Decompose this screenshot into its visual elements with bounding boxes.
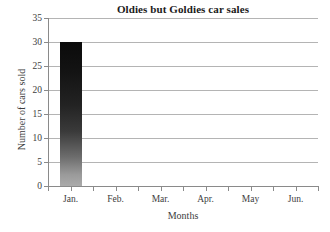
y-axis-tick-label: 30 xyxy=(33,37,43,47)
x-axis-ticks xyxy=(48,186,318,192)
y-axis-tick-label: 25 xyxy=(33,61,43,71)
plot-area: 05101520253035 xyxy=(48,18,318,186)
x-axis-tick xyxy=(116,186,117,191)
x-axis-tick xyxy=(93,186,94,191)
x-axis-tick-label: Apr. xyxy=(197,194,214,204)
bar-series xyxy=(48,18,318,186)
x-axis-tick-label: Jun. xyxy=(288,194,304,204)
x-axis-tick-label: Jan. xyxy=(63,194,78,204)
x-axis-tick xyxy=(251,186,252,191)
x-axis-tick-labels: Jan.Feb.Mar.Apr.MayJun. xyxy=(48,194,318,208)
y-axis-tick-label: 10 xyxy=(33,133,43,143)
x-axis-tick xyxy=(48,186,49,191)
y-axis-tick-label: 0 xyxy=(37,181,42,191)
x-axis-tick xyxy=(206,186,207,191)
x-axis-tick xyxy=(228,186,229,191)
x-axis-tick xyxy=(71,186,72,191)
x-axis-tick-label: May xyxy=(242,194,259,204)
y-axis-tick-label: 35 xyxy=(33,13,43,23)
y-axis-tick-label: 5 xyxy=(37,157,42,167)
x-axis-tick xyxy=(161,186,162,191)
x-axis-tick-label: Feb. xyxy=(107,194,124,204)
y-axis-tick-label: 20 xyxy=(33,85,43,95)
bar-jan xyxy=(60,42,82,186)
x-axis-tick-label: Mar. xyxy=(152,194,170,204)
x-axis-tick xyxy=(273,186,274,191)
x-axis-tick xyxy=(183,186,184,191)
chart-title: Oldies but Goldies car sales xyxy=(48,3,318,15)
y-axis-title: Number of cars sold xyxy=(16,35,27,185)
y-axis-tick-label: 15 xyxy=(33,109,43,119)
x-axis-tick xyxy=(296,186,297,191)
x-axis-tick xyxy=(318,186,319,191)
x-axis-tick xyxy=(138,186,139,191)
x-axis-title: Months xyxy=(48,210,318,221)
bar-chart: Oldies but Goldies car sales Number of c… xyxy=(0,0,330,232)
